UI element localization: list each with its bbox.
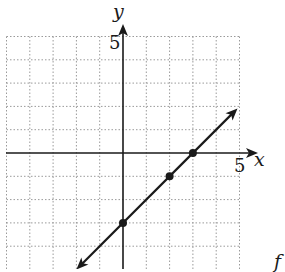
- data-point: [189, 149, 197, 157]
- data-point: [119, 219, 127, 227]
- x-axis-label: x: [254, 148, 265, 170]
- data-series: [76, 108, 237, 269]
- axes: [6, 24, 258, 269]
- data-point: [166, 172, 174, 180]
- y-axis-label: y: [113, 0, 124, 22]
- cropped-glyph: f: [274, 250, 281, 272]
- x-tick-5: 5: [234, 155, 245, 176]
- graph-line: [80, 112, 233, 265]
- y-tick-5: 5: [109, 32, 120, 53]
